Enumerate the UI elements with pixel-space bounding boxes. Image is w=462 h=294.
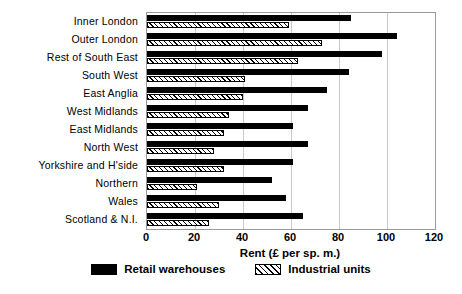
bar-industrial-units bbox=[147, 130, 224, 136]
bar-industrial-units bbox=[147, 94, 243, 100]
category-label: Scotland & N.I. bbox=[65, 210, 138, 228]
x-axis-tick-label: 20 bbox=[188, 231, 200, 243]
category-label: North West bbox=[84, 138, 138, 156]
x-axis-tick-label: 0 bbox=[143, 231, 149, 243]
bar-group bbox=[147, 211, 435, 229]
bar-group bbox=[147, 49, 435, 67]
plot-area bbox=[146, 12, 436, 230]
category-label: South West bbox=[82, 66, 138, 84]
bar-industrial-units bbox=[147, 58, 298, 64]
legend-item-industrial-units: Industrial units bbox=[255, 263, 370, 275]
bar-retail-warehouses bbox=[147, 51, 382, 57]
bar-chart: Inner LondonOuter LondonRest of South Ea… bbox=[0, 0, 462, 294]
bar-retail-warehouses bbox=[147, 15, 351, 21]
bar-industrial-units bbox=[147, 22, 289, 28]
bar-group bbox=[147, 85, 435, 103]
bar-retail-warehouses bbox=[147, 33, 397, 39]
bar-retail-warehouses bbox=[147, 177, 272, 183]
x-axis-tick-label: 120 bbox=[425, 231, 443, 243]
bar-industrial-units bbox=[147, 40, 322, 46]
bar-group bbox=[147, 103, 435, 121]
bar-industrial-units bbox=[147, 166, 224, 172]
bar-group bbox=[147, 67, 435, 85]
x-axis-title: Rent (£ per sp. m.) bbox=[146, 247, 434, 259]
bar-group bbox=[147, 13, 435, 31]
bar-group bbox=[147, 157, 435, 175]
bar-industrial-units bbox=[147, 220, 209, 226]
bar-retail-warehouses bbox=[147, 87, 327, 93]
bar-industrial-units bbox=[147, 202, 219, 208]
bar-retail-warehouses bbox=[147, 195, 286, 201]
bar-group bbox=[147, 193, 435, 211]
category-label: Inner London bbox=[74, 12, 138, 30]
legend-label-industrial-units: Industrial units bbox=[288, 263, 370, 275]
bar-industrial-units bbox=[147, 76, 245, 82]
bar-retail-warehouses bbox=[147, 123, 293, 129]
bar-industrial-units bbox=[147, 184, 197, 190]
category-label: Rest of South East bbox=[47, 48, 138, 66]
x-axis-tick-label: 100 bbox=[377, 231, 395, 243]
x-axis-tick-label: 40 bbox=[236, 231, 248, 243]
bar-retail-warehouses bbox=[147, 213, 303, 219]
bar-industrial-units bbox=[147, 148, 214, 154]
category-label: East Midlands bbox=[69, 120, 138, 138]
category-label: Wales bbox=[108, 192, 138, 210]
category-label: East Anglia bbox=[83, 84, 138, 102]
category-label: Yorkshire and H'side bbox=[38, 156, 138, 174]
bar-retail-warehouses bbox=[147, 69, 349, 75]
bar-group bbox=[147, 139, 435, 157]
category-label: Outer London bbox=[71, 30, 138, 48]
category-label: Northern bbox=[96, 174, 138, 192]
bar-group bbox=[147, 31, 435, 49]
hatched-swatch-icon bbox=[255, 264, 281, 275]
solid-black-swatch-icon bbox=[91, 264, 117, 275]
bar-group bbox=[147, 175, 435, 193]
legend-item-retail-warehouses: Retail warehouses bbox=[91, 263, 225, 275]
x-axis-tick-labels: 020406080100120 bbox=[146, 231, 434, 245]
bar-retail-warehouses bbox=[147, 159, 293, 165]
bar-retail-warehouses bbox=[147, 105, 308, 111]
bar-retail-warehouses bbox=[147, 141, 308, 147]
x-axis-tick-label: 60 bbox=[284, 231, 296, 243]
bar-group bbox=[147, 121, 435, 139]
category-label: West Midlands bbox=[67, 102, 138, 120]
x-axis-tick-label: 80 bbox=[332, 231, 344, 243]
category-axis-labels: Inner LondonOuter LondonRest of South Ea… bbox=[0, 12, 142, 228]
bar-industrial-units bbox=[147, 112, 229, 118]
legend-label-retail-warehouses: Retail warehouses bbox=[124, 263, 225, 275]
chart-legend: Retail warehouses Industrial units bbox=[0, 263, 462, 275]
